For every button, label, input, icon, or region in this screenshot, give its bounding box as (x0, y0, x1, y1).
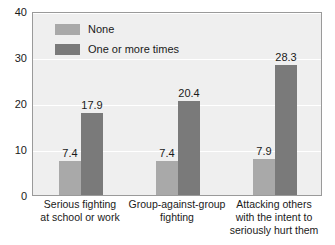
bar[interactable] (275, 65, 297, 195)
bar[interactable] (156, 161, 178, 195)
bar-group: 7.928.3 (253, 13, 297, 195)
x-axis-category-label: Attacking otherswith the intent toseriou… (220, 198, 328, 237)
bar-chart: 010203040 NoneOne or more times 7.417.97… (0, 0, 335, 245)
x-axis-category-label: Group-against-groupfighting (123, 198, 231, 224)
bar-value-label: 20.4 (172, 88, 206, 99)
x-axis-category-label-line: Attacking others (220, 198, 328, 211)
x-axis-category-labels: Serious fightingat school or workGroup-a… (32, 198, 322, 245)
x-axis-category-label-line: fighting (123, 211, 231, 224)
bar-value-label: 17.9 (75, 100, 109, 111)
legend-swatch-icon (55, 24, 80, 35)
x-axis-category-label-line: with the intent to (220, 211, 328, 224)
x-axis-category-label: Serious fightingat school or work (26, 198, 134, 224)
x-axis-category-label-line: seriously hurt them (220, 224, 328, 237)
y-tick-label: 20 (15, 99, 27, 110)
legend-item[interactable]: One or more times (55, 39, 179, 59)
bar[interactable] (81, 113, 103, 195)
x-axis-category-label-line: Serious fighting (26, 198, 134, 211)
legend-swatch-icon (55, 44, 80, 55)
chart-legend: NoneOne or more times (55, 19, 179, 59)
bar[interactable] (253, 159, 275, 195)
bar[interactable] (59, 161, 81, 195)
y-tick-label: 30 (15, 53, 27, 64)
x-axis-category-label-line: Group-against-group (123, 198, 231, 211)
legend-label: None (88, 24, 114, 35)
plot-area: NoneOne or more times 7.417.97.420.47.92… (32, 12, 322, 196)
legend-label: One or more times (88, 44, 179, 55)
y-tick-label: 10 (15, 145, 27, 156)
x-axis-category-label-line: at school or work (26, 211, 134, 224)
bar-value-label: 28.3 (269, 52, 303, 63)
y-tick-label: 40 (15, 7, 27, 18)
legend-item[interactable]: None (55, 19, 179, 39)
bar[interactable] (178, 101, 200, 195)
